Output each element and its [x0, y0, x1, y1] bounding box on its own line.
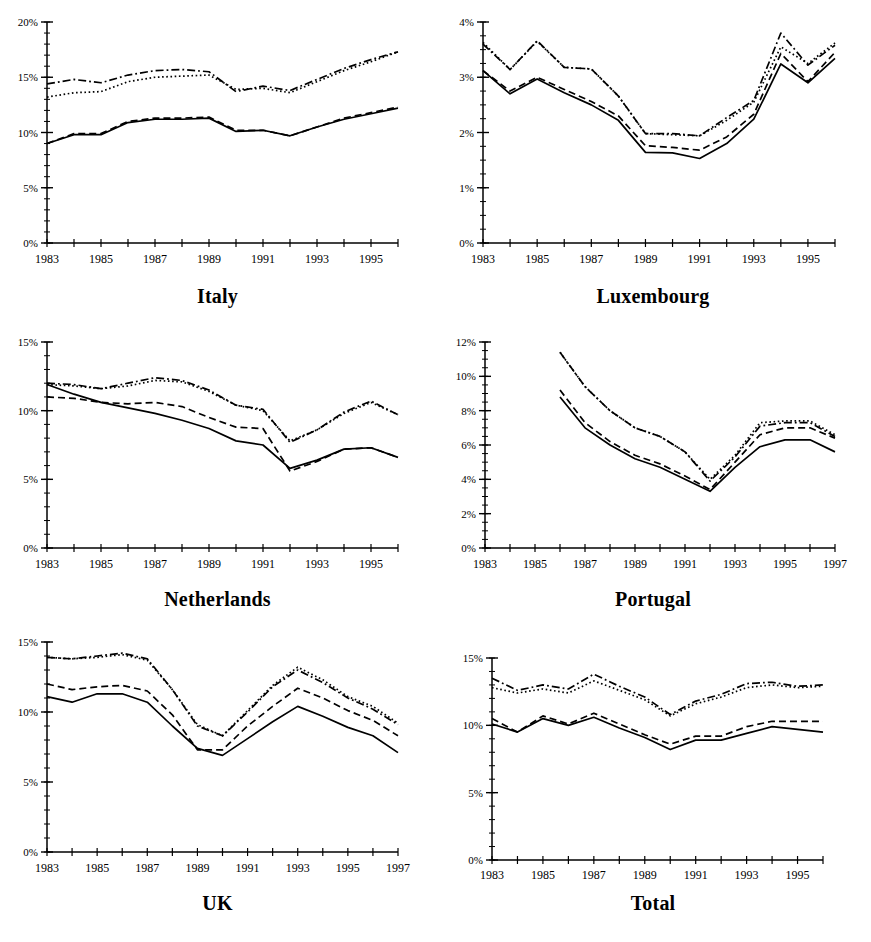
x-tick-label: 1989 [197, 252, 221, 266]
x-tick-label: 1995 [796, 252, 820, 266]
series-line-dash-dot [560, 352, 835, 481]
panel-netherlands: 0%5%10%15%1983198519871989199119931995 N… [0, 320, 435, 620]
series-line-dotted [483, 41, 835, 135]
x-tick-label: 1985 [85, 861, 109, 875]
panel-italy: 0%5%10%15%20%198319851987198919911993199… [0, 0, 435, 320]
series-line-dotted [560, 352, 835, 479]
chart-title-total: Total [435, 892, 871, 915]
y-tick-label: 15% [463, 652, 483, 664]
x-tick-label: 1983 [480, 868, 504, 882]
series-line-solid [47, 108, 398, 143]
y-tick-label: 12% [456, 336, 476, 348]
y-tick-label: 0% [23, 542, 38, 554]
x-tick-label: 1991 [684, 868, 708, 882]
y-tick-label: 2% [459, 127, 474, 139]
x-tick-label: 1991 [251, 252, 275, 266]
y-tick-label: 10% [18, 127, 38, 139]
y-tick-label: 10% [456, 370, 476, 382]
series-line-solid [483, 58, 835, 158]
panel-total: 0%5%10%15%1983198519871989199119931995 T… [435, 620, 871, 942]
series-line-dash-dot [47, 378, 398, 443]
chart-uk: 0%5%10%15%198319851987198919911993199519… [0, 620, 435, 892]
x-tick-label: 1995 [336, 861, 360, 875]
x-tick-label: 1991 [236, 861, 260, 875]
chart-title-luxembourg: Luxembourg [435, 285, 871, 308]
y-tick-label: 8% [461, 405, 476, 417]
y-tick-label: 3% [459, 71, 474, 83]
y-tick-label: 4% [459, 16, 474, 28]
y-tick-label: 15% [18, 636, 38, 648]
x-tick-label: 1991 [673, 557, 697, 571]
series-line-solid [560, 397, 835, 491]
x-tick-label: 1993 [305, 557, 329, 571]
x-tick-label: 1985 [89, 557, 113, 571]
series-line-dashed [492, 713, 823, 744]
x-tick-label: 1983 [471, 252, 495, 266]
x-tick-label: 1993 [735, 868, 759, 882]
y-tick-label: 5% [23, 776, 38, 788]
y-tick-label: 0% [461, 542, 476, 554]
y-tick-label: 10% [18, 706, 38, 718]
x-tick-label: 1983 [473, 557, 497, 571]
chart-title-uk: UK [0, 892, 435, 915]
x-tick-label: 1985 [89, 252, 113, 266]
x-tick-label: 1991 [251, 557, 275, 571]
chart-title-italy: Italy [0, 285, 435, 308]
x-tick-label: 1985 [525, 252, 549, 266]
series-line-dashed [483, 52, 835, 150]
series-line-solid [47, 694, 398, 756]
x-tick-label: 1987 [135, 861, 159, 875]
y-tick-label: 5% [23, 182, 38, 194]
x-tick-label: 1987 [143, 557, 167, 571]
x-tick-label: 1983 [35, 557, 59, 571]
series-line-dotted [47, 655, 398, 736]
chart-netherlands: 0%5%10%15%1983198519871989199119931995 [0, 320, 435, 588]
y-tick-label: 5% [23, 473, 38, 485]
y-tick-label: 15% [18, 71, 38, 83]
y-tick-label: 5% [468, 787, 483, 799]
series-line-dash-dot [492, 674, 823, 714]
chart-portugal: 0%2%4%6%8%10%12%198319851987198919911993… [435, 320, 871, 588]
chart-grid: 0%5%10%15%20%198319851987198919911993199… [0, 0, 871, 942]
x-tick-label: 1995 [359, 252, 383, 266]
x-tick-label: 1987 [579, 252, 603, 266]
x-tick-label: 1995 [786, 868, 810, 882]
x-tick-label: 1993 [723, 557, 747, 571]
y-tick-label: 10% [463, 719, 483, 731]
series-line-dotted [492, 681, 823, 716]
chart-total: 0%5%10%15%1983198519871989199119931995 [435, 620, 871, 892]
y-tick-label: 0% [23, 237, 38, 249]
x-tick-label: 1985 [523, 557, 547, 571]
y-tick-label: 0% [468, 854, 483, 866]
x-tick-label: 1987 [573, 557, 597, 571]
y-tick-label: 20% [18, 16, 38, 28]
x-tick-label: 1989 [185, 861, 209, 875]
x-tick-label: 1993 [305, 252, 329, 266]
x-tick-label: 1987 [143, 252, 167, 266]
x-tick-label: 1995 [359, 557, 383, 571]
series-line-dotted [47, 380, 398, 440]
x-tick-label: 1989 [623, 557, 647, 571]
series-line-dash-dot [47, 52, 398, 92]
y-tick-label: 10% [18, 405, 38, 417]
x-tick-label: 1989 [633, 868, 657, 882]
x-tick-label: 1991 [688, 252, 712, 266]
x-tick-label: 1995 [773, 557, 797, 571]
chart-luxembourg: 0%1%2%3%4%1983198519871989199119931995 [435, 0, 871, 285]
panel-portugal: 0%2%4%6%8%10%12%198319851987198919911993… [435, 320, 871, 620]
panel-luxembourg: 0%1%2%3%4%1983198519871989199119931995 L… [435, 0, 871, 320]
y-tick-label: 1% [459, 182, 474, 194]
x-tick-label: 1989 [633, 252, 657, 266]
x-tick-label: 1997 [823, 557, 847, 571]
x-tick-label: 1989 [197, 557, 221, 571]
chart-title-netherlands: Netherlands [0, 588, 435, 611]
y-tick-label: 6% [461, 439, 476, 451]
panel-uk: 0%5%10%15%198319851987198919911993199519… [0, 620, 435, 942]
y-tick-label: 0% [23, 846, 38, 858]
chart-title-portugal: Portugal [435, 588, 871, 611]
x-tick-label: 1983 [35, 861, 59, 875]
x-tick-label: 1987 [582, 868, 606, 882]
x-tick-label: 1983 [35, 252, 59, 266]
y-tick-label: 15% [18, 336, 38, 348]
x-tick-label: 1993 [742, 252, 766, 266]
